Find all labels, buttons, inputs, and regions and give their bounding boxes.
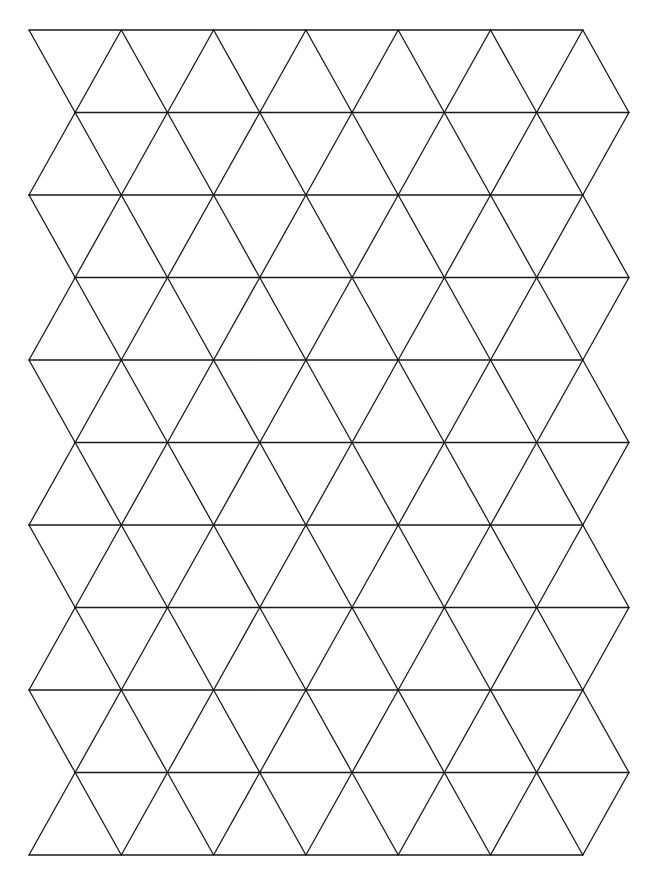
diagonal-line — [214, 195, 260, 278]
diagonal-line — [121, 608, 167, 691]
diagonal-line — [537, 113, 583, 196]
diagonal-line — [29, 113, 75, 196]
diagonal-line — [444, 360, 490, 443]
diagonal-line — [352, 608, 398, 691]
diagonal-line — [537, 525, 583, 608]
diagonal-line — [214, 443, 260, 526]
diagonal-line — [491, 30, 537, 113]
diagonal-line — [306, 690, 352, 773]
diagonal-line — [583, 195, 629, 278]
diagonal-line — [121, 360, 167, 443]
diagonal-line — [398, 195, 444, 278]
diagonal-line — [260, 525, 306, 608]
diagonal-line — [537, 30, 583, 113]
diagonal-line — [29, 443, 75, 526]
diagonal-line — [583, 30, 629, 113]
diagonal-line — [583, 360, 629, 443]
diagonal-line — [352, 690, 398, 773]
diagonal-line — [121, 278, 167, 361]
diagonal-line — [260, 113, 306, 196]
diagonal-line — [29, 360, 75, 443]
diagonal-line — [75, 360, 121, 443]
diagonal-line — [352, 30, 398, 113]
diagonal-line — [537, 278, 583, 361]
diagonal-line — [260, 360, 306, 443]
diagonal-line — [121, 113, 167, 196]
diagonal-line — [491, 525, 537, 608]
diagonal-line — [444, 443, 490, 526]
diagonal-line — [398, 525, 444, 608]
diagonal-line — [260, 30, 306, 113]
diagonal-line — [214, 360, 260, 443]
diagonal-line — [121, 773, 167, 856]
diagonal-line — [29, 525, 75, 608]
diagonal-line — [398, 30, 444, 113]
diagonal-line — [75, 30, 121, 113]
diagonal-line — [537, 360, 583, 443]
diagonal-line — [306, 443, 352, 526]
diagonal-line — [444, 278, 490, 361]
diagonal-line — [352, 113, 398, 196]
diagonal-line — [75, 195, 121, 278]
diagonal-line — [398, 690, 444, 773]
diagonal-line — [167, 360, 213, 443]
diagonal-line — [75, 608, 121, 691]
diagonal-line — [306, 30, 352, 113]
diagonal-line — [491, 443, 537, 526]
diagonal-line — [260, 690, 306, 773]
diagonal-line — [306, 525, 352, 608]
diagonal-line — [167, 195, 213, 278]
diagonal-line — [444, 113, 490, 196]
diagonal-line — [583, 278, 629, 361]
diagonal-line — [167, 278, 213, 361]
diagonal-line — [491, 278, 537, 361]
diagonal-line — [306, 195, 352, 278]
diagonal-line — [352, 278, 398, 361]
diagonal-line — [583, 113, 629, 196]
diagonal-line — [121, 30, 167, 113]
diagonal-line — [214, 773, 260, 856]
diagonal-line — [167, 443, 213, 526]
diagonal-line — [444, 608, 490, 691]
diagonal-line — [167, 113, 213, 196]
diagonal-line — [214, 525, 260, 608]
diagonal-line — [260, 773, 306, 856]
diagonal-line — [444, 195, 490, 278]
diagonal-line — [352, 195, 398, 278]
diagonal-line — [75, 773, 121, 856]
diagonal-line — [398, 360, 444, 443]
diagonal-line — [583, 690, 629, 773]
diagonal-line — [398, 113, 444, 196]
diagonal-line — [29, 608, 75, 691]
diagonal-line — [167, 608, 213, 691]
diagonal-line — [167, 773, 213, 856]
diagonal-line — [491, 113, 537, 196]
diagonal-line — [537, 608, 583, 691]
diagonal-line — [75, 278, 121, 361]
diagonal-line — [75, 690, 121, 773]
diagonal-line — [167, 690, 213, 773]
diagonal-line — [306, 278, 352, 361]
diagonal-line — [537, 195, 583, 278]
diagonal-line — [398, 278, 444, 361]
diagonal-line — [306, 773, 352, 856]
diagonal-line — [491, 608, 537, 691]
diagonal-line — [214, 278, 260, 361]
triangle-grid — [0, 0, 658, 883]
diagonal-line — [444, 30, 490, 113]
diagonal-line — [29, 195, 75, 278]
diagonal-line — [167, 30, 213, 113]
diagonal-line — [306, 360, 352, 443]
diagonal-line — [491, 360, 537, 443]
diagonal-line — [75, 443, 121, 526]
diagonal-line — [29, 30, 75, 113]
diagonal-line — [537, 690, 583, 773]
grid-lines — [29, 30, 629, 855]
diagonal-line — [75, 113, 121, 196]
diagonal-line — [444, 773, 490, 856]
diagonal-line — [352, 773, 398, 856]
diagonal-line — [491, 690, 537, 773]
diagonal-line — [214, 690, 260, 773]
diagonal-line — [121, 195, 167, 278]
diagonal-line — [121, 443, 167, 526]
